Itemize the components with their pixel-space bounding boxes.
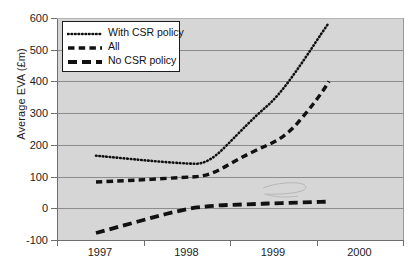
y-tick-label--100: -100 — [14, 234, 48, 246]
series-line-no-csr-policy — [96, 202, 329, 233]
x-tick-mark-start — [57, 240, 58, 246]
legend-item-all: All — [67, 39, 175, 53]
y-tick-label-100: 100 — [14, 171, 48, 183]
x-tick-mark-3 — [317, 240, 318, 246]
dashed-line-swatch — [67, 40, 103, 52]
legend-item-with-csr-policy: With CSR policy — [67, 25, 175, 39]
y-tick-label-600: 600 — [14, 12, 48, 24]
legend-label-no-csr-policy: No CSR policy — [108, 54, 176, 66]
y-tick-label-500: 500 — [14, 44, 48, 56]
long-dashed-line-swatch — [67, 54, 103, 66]
plot-frame-right — [403, 18, 404, 241]
y-axis-tick-labels: 600 500 400 300 200 100 0 -100 — [12, 0, 48, 277]
chart-legend: With CSR policy All No CSR policy — [62, 21, 180, 72]
x-tick-mark-1 — [144, 240, 145, 246]
x-tick-label-1999: 1999 — [243, 246, 303, 258]
legend-label-all: All — [108, 40, 120, 52]
plot-frame-top — [57, 18, 404, 19]
y-tick-label-0: 0 — [14, 202, 48, 214]
chart-figure: Average EVA (£m) 600 500 400 300 200 100… — [0, 0, 416, 277]
x-tick-label-2000: 2000 — [330, 246, 390, 258]
series-line-all — [96, 81, 329, 182]
x-tick-mark-2 — [230, 240, 231, 246]
legend-label-with-csr-policy: With CSR policy — [108, 26, 184, 38]
x-tick-mark-end — [403, 240, 404, 246]
x-tick-label-1998: 1998 — [157, 246, 217, 258]
y-tick-label-300: 300 — [14, 107, 48, 119]
dotted-line-swatch — [67, 26, 103, 38]
legend-item-no-csr-policy: No CSR policy — [67, 53, 175, 67]
y-tick-label-200: 200 — [14, 139, 48, 151]
y-tick-label-400: 400 — [14, 75, 48, 87]
x-tick-label-1997: 1997 — [70, 246, 130, 258]
